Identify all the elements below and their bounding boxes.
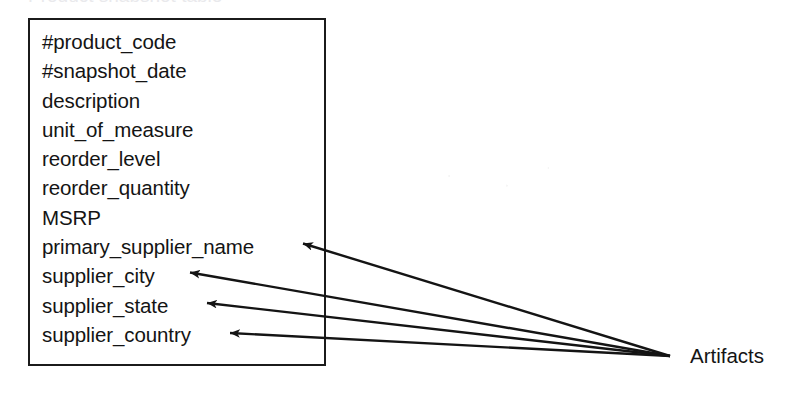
field-supplier-state: supplier_state [42, 291, 322, 320]
diagram-canvas: Product snapshot table #product_code #sn… [0, 0, 791, 403]
clipped-diagram-title-text: Product snapshot table [28, 0, 328, 2]
field-unit-of-measure: unit_of_measure [42, 115, 322, 144]
field-primary-supplier-name: primary_supplier_name [42, 232, 322, 261]
scan-artifact-speckle [430, 120, 590, 200]
artifacts-annotation-label: Artifacts [690, 344, 764, 368]
field-msrp: MSRP [42, 203, 322, 232]
field-supplier-city: supplier_city [42, 261, 322, 290]
clipped-diagram-title: Product snapshot table [28, 0, 328, 2]
field-product-code: #product_code [42, 27, 322, 56]
entity-field-list: #product_code #snapshot_date description… [42, 27, 322, 349]
field-description: description [42, 86, 322, 115]
field-supplier-country: supplier_country [42, 320, 322, 349]
arrow-to-primary-supplier-name [303, 244, 670, 357]
field-snapshot-date: #snapshot_date [42, 56, 322, 85]
field-reorder-level: reorder_level [42, 144, 322, 173]
field-reorder-quantity: reorder_quantity [42, 173, 322, 202]
